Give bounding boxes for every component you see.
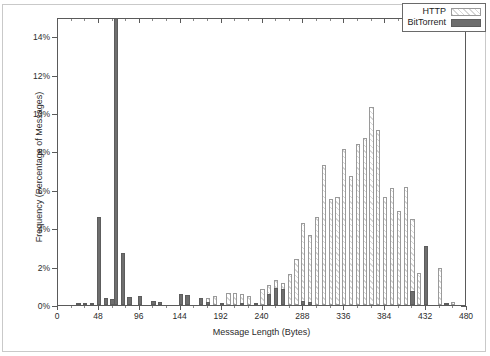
x-tick-336 (343, 306, 344, 310)
bar-http-384 (383, 197, 387, 305)
bar-http-224 (247, 296, 251, 305)
x-minor-tick-top (84, 19, 85, 21)
bar-http-368 (369, 107, 373, 305)
plot-area (57, 18, 466, 306)
chart-legend: HTTP BitTorrent (402, 3, 486, 32)
bar-bittorrent-192 (220, 303, 224, 305)
x-minor-tick (357, 306, 358, 308)
bar-http-408 (404, 187, 408, 305)
bar-bittorrent-288 (301, 301, 305, 305)
bar-bittorrent-248 (267, 294, 271, 305)
y-tick-label-4: 4% (14, 224, 50, 234)
x-minor-tick (439, 306, 440, 308)
bar-bittorrent-168 (199, 298, 203, 305)
bar-bittorrent-68 (114, 18, 118, 305)
bar-bittorrent-216 (240, 303, 244, 305)
x-minor-tick-top (330, 19, 331, 21)
x-tick-label-48: 48 (78, 311, 118, 321)
x-tick-384 (384, 306, 385, 310)
bar-http-464 (451, 302, 455, 305)
y-tick-label-8: 8% (14, 147, 50, 157)
bar-bittorrent-96 (138, 296, 142, 305)
bar-bittorrent-456 (444, 303, 448, 305)
y-tick-label-10: 10% (14, 109, 50, 119)
y-tick-label-6: 6% (14, 186, 50, 196)
bar-http-400 (397, 211, 401, 305)
bar-http-288 (301, 223, 305, 305)
bar-http-200 (226, 293, 230, 305)
bar-http-312 (322, 165, 326, 305)
legend-label-http: HTTP (423, 6, 447, 17)
x-minor-tick-top (316, 19, 317, 21)
bar-bittorrent-432 (424, 246, 428, 305)
y-tick-label-14: 14% (14, 32, 50, 42)
x-tick-432 (425, 306, 426, 310)
x-minor-tick (84, 306, 85, 308)
x-tick-label-432: 432 (405, 311, 445, 321)
bar-bittorrent-120 (158, 302, 162, 305)
bar-http-296 (308, 235, 312, 305)
x-minor-tick-top (275, 19, 276, 21)
x-minor-tick (275, 306, 276, 308)
bar-http-336 (342, 149, 346, 305)
x-tick-top-336 (343, 19, 344, 23)
x-minor-tick-top (398, 19, 399, 21)
x-tick-top-0 (57, 19, 58, 23)
bar-bittorrent-112 (151, 301, 155, 305)
bar-http-240 (260, 289, 264, 305)
bar-bittorrent-76 (121, 253, 125, 305)
x-minor-tick (398, 306, 399, 308)
x-minor-tick (207, 306, 208, 308)
bar-http-360 (363, 138, 367, 305)
legend-swatch-http (451, 8, 481, 16)
x-tick-480 (466, 306, 467, 310)
bar-bittorrent-144 (179, 294, 183, 305)
bar-http-208 (233, 293, 237, 305)
x-tick-label-96: 96 (119, 311, 159, 321)
x-minor-tick (330, 306, 331, 308)
bar-http-304 (315, 217, 319, 305)
x-minor-tick (289, 306, 290, 308)
bar-http-280 (294, 259, 298, 305)
x-tick-top-48 (98, 19, 99, 23)
x-minor-tick (166, 306, 167, 308)
x-minor-tick-top (166, 19, 167, 21)
x-minor-tick-top (248, 19, 249, 21)
x-tick-label-336: 336 (323, 311, 363, 321)
x-tick-top-288 (302, 19, 303, 23)
bar-http-376 (376, 130, 380, 305)
x-minor-tick-top (289, 19, 290, 21)
bar-http-448 (438, 268, 442, 305)
legend-item-http: HTTP (407, 6, 481, 17)
x-minor-tick (112, 306, 113, 308)
bar-bittorrent-84 (127, 297, 131, 305)
x-minor-tick (193, 306, 194, 308)
x-tick-label-288: 288 (282, 311, 322, 321)
x-tick-240 (262, 306, 263, 310)
x-minor-tick (371, 306, 372, 308)
y-tick-label-2: 2% (14, 263, 50, 273)
x-tick-0 (57, 306, 58, 310)
bar-bittorrent-40 (90, 303, 94, 305)
x-minor-tick-top (152, 19, 153, 21)
bar-http-320 (329, 199, 333, 305)
bar-bittorrent-232 (254, 303, 258, 305)
x-minor-tick (248, 306, 249, 308)
bar-http-424 (417, 273, 421, 305)
y-tick-label-12: 12% (14, 71, 50, 81)
bar-bittorrent-176 (206, 302, 210, 305)
x-minor-tick-top (125, 19, 126, 21)
x-tick-label-144: 144 (160, 311, 200, 321)
bar-http-184 (213, 296, 217, 305)
bar-http-344 (349, 176, 353, 305)
x-minor-tick (452, 306, 453, 308)
x-minor-tick (234, 306, 235, 308)
x-minor-tick-top (371, 19, 372, 21)
legend-swatch-bittorrent (451, 19, 481, 27)
x-tick-label-480: 480 (446, 311, 486, 321)
x-tick-top-144 (180, 19, 181, 23)
legend-label-bittorrent: BitTorrent (407, 17, 446, 28)
x-minor-tick-top (234, 19, 235, 21)
x-tick-192 (221, 306, 222, 310)
x-tick-top-384 (384, 19, 385, 23)
